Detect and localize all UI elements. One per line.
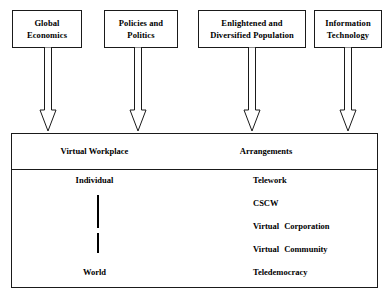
panel-header-row: Virtual Workplace Arrangements xyxy=(12,134,377,170)
driver-label-line1: Information xyxy=(325,18,371,28)
arrangement-item-virtual-community: VirtualCommunity xyxy=(253,244,328,254)
driver-label-line1: Policies and xyxy=(119,18,163,28)
driver-label-line1: Global xyxy=(34,18,59,28)
arrangement-word1: Virtual xyxy=(253,244,279,254)
driver-label-line1: Enlightened and xyxy=(221,18,282,28)
panel-body: Individual World Telework CSCW VirtualCo… xyxy=(12,170,377,287)
arrangement-item-telework: Telework xyxy=(253,175,292,185)
diagram-canvas: Global Economics Policies and Politics E… xyxy=(0,0,390,298)
scale-tick-lower xyxy=(97,233,99,253)
arrangement-word1: Teledemocracy xyxy=(253,267,307,277)
driver-box-information-technology: Information Technology xyxy=(314,10,382,48)
scale-column: Individual World xyxy=(12,170,177,287)
header-arrangements: Arrangements xyxy=(177,146,355,156)
driver-box-global-economics: Global Economics xyxy=(12,10,82,48)
driver-box-policies-and-politics: Policies and Politics xyxy=(104,10,178,48)
arrow-down-icon-information-technology xyxy=(339,47,357,132)
driver-box-label: Enlightened and Diversified Population xyxy=(210,17,294,41)
virtual-workplace-panel: Virtual Workplace Arrangements Individua… xyxy=(11,133,378,288)
arrow-down-icon-global-economics xyxy=(39,47,57,132)
arrangement-item-teledemocracy: Teledemocracy xyxy=(253,267,312,277)
arrangement-item-cscw: CSCW xyxy=(253,198,284,208)
driver-box-label: Global Economics xyxy=(27,17,67,41)
driver-label-line2: Technology xyxy=(327,30,369,40)
arrangement-word1: Telework xyxy=(253,175,287,185)
arrow-down-icon-policies-and-politics xyxy=(129,47,147,132)
scale-tick-upper xyxy=(97,195,99,228)
driver-label-line2: Diversified Population xyxy=(210,30,294,40)
driver-label-line2: Politics xyxy=(127,30,154,40)
driver-box-enlightened-and-diversified-population: Enlightened and Diversified Population xyxy=(198,10,306,48)
arrangement-word2: Community xyxy=(284,244,327,254)
arrow-down-icon-enlightened-and-diversified-population xyxy=(243,47,261,132)
scale-label-world: World xyxy=(12,267,177,277)
arrangement-item-virtual-corporation: VirtualCorporation xyxy=(253,221,329,231)
scale-label-individual: Individual xyxy=(12,175,177,185)
driver-box-label: Policies and Politics xyxy=(119,17,163,41)
arrangements-column: Telework CSCW VirtualCorporation Virtual… xyxy=(177,170,377,287)
arrangement-word1: Virtual xyxy=(253,221,279,231)
driver-box-label: Information Technology xyxy=(325,17,371,41)
driver-label-line2: Economics xyxy=(27,30,67,40)
header-virtual-workplace: Virtual Workplace xyxy=(12,146,177,156)
arrangement-word1: CSCW xyxy=(253,198,279,208)
arrangement-word2: Corporation xyxy=(284,221,329,231)
